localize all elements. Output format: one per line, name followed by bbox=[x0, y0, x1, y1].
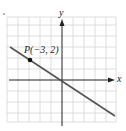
coordinate-plane-figure: P(−3, 2) x y bbox=[0, 0, 126, 131]
x-axis-label: x bbox=[117, 74, 121, 84]
x-axis-arrow-icon bbox=[108, 78, 115, 83]
y-axis bbox=[60, 19, 65, 126]
figure-marker-dot bbox=[3, 13, 5, 15]
y-axis-arrow-icon bbox=[60, 19, 65, 26]
graph-canvas bbox=[0, 0, 126, 131]
point-p-marker bbox=[28, 58, 33, 63]
y-axis-label: y bbox=[59, 8, 63, 18]
point-p-label: P(−3, 2) bbox=[24, 45, 59, 55]
